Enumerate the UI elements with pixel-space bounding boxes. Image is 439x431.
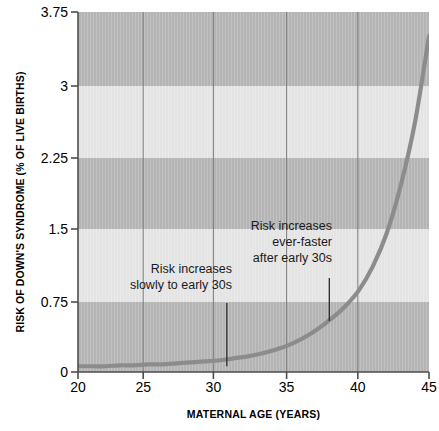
plot-bands — [78, 12, 429, 372]
x-tick-label-25: 25 — [123, 379, 163, 395]
x-tick-label-30: 30 — [193, 379, 233, 395]
y-axis-title: RISK OF DOWN'S SYNDROME (% OF LIVE BIRTH… — [14, 22, 26, 382]
x-tick-label-40: 40 — [338, 379, 378, 395]
x-tick-label-20: 20 — [58, 379, 98, 395]
y-axis-ticks — [71, 12, 78, 372]
annotation-fast-rise: Risk increases ever-faster after early 3… — [180, 218, 332, 266]
x-tick-label-45: 45 — [409, 379, 439, 395]
y-tick-label-3.75: 3.75 — [8, 4, 68, 20]
x-axis-title: MATERNAL AGE (YEARS) — [78, 408, 429, 420]
x-tick-label-35: 35 — [267, 379, 307, 395]
chart-figure: 3.75 3 2.25 1.5 0.75 0 20 25 30 35 40 45… — [0, 0, 439, 431]
band-texture — [78, 12, 429, 372]
x-axis-ticks — [78, 372, 429, 379]
